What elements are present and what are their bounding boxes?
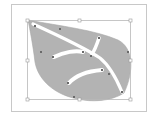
anchor-point[interactable] xyxy=(108,73,110,75)
anchor-point[interactable] xyxy=(101,69,103,71)
anchor-point[interactable] xyxy=(98,37,100,39)
handle-middle-right[interactable] xyxy=(129,59,132,62)
anchor-point[interactable] xyxy=(82,51,84,53)
anchor-point[interactable] xyxy=(67,82,69,84)
leaf-shape[interactable] xyxy=(28,20,131,101)
anchor-point[interactable] xyxy=(40,51,42,53)
handle-middle-left[interactable] xyxy=(26,59,29,62)
anchor-point[interactable] xyxy=(90,55,92,57)
anchor-point[interactable] xyxy=(52,56,54,58)
anchor-point[interactable] xyxy=(34,25,36,27)
handle-bottom-middle[interactable] xyxy=(78,98,81,101)
handle-bottom-right[interactable] xyxy=(129,98,132,101)
handle-top-middle[interactable] xyxy=(78,19,81,22)
canvas[interactable] xyxy=(0,0,155,120)
anchor-point[interactable] xyxy=(73,96,75,98)
handle-top-left[interactable] xyxy=(26,19,29,22)
anchor-point[interactable] xyxy=(59,28,61,30)
anchor-point[interactable] xyxy=(127,51,129,53)
handle-top-right[interactable] xyxy=(129,19,132,22)
anchor-point[interactable] xyxy=(121,91,123,93)
handle-bottom-left[interactable] xyxy=(26,98,29,101)
